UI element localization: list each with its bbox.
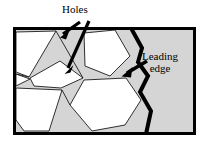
label-holes: Holes xyxy=(62,4,88,16)
label-leading-edge: Leading edge xyxy=(142,50,178,74)
label-leading-edge-line2: edge xyxy=(142,62,178,74)
label-leading-edge-line1: Leading xyxy=(142,50,178,62)
